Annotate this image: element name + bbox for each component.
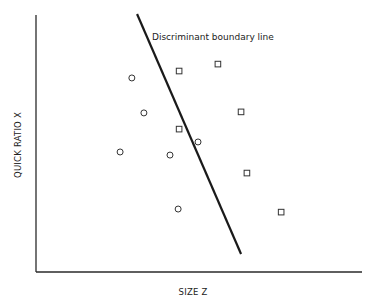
square-marker	[238, 109, 244, 115]
circle-marker	[167, 152, 173, 158]
square-marker	[176, 126, 182, 132]
discriminant-boundary-line	[137, 14, 241, 254]
square-marker	[244, 170, 250, 176]
circle-marker	[195, 139, 201, 145]
x-axis-label: SIZE Z	[179, 287, 208, 297]
axes	[36, 15, 362, 272]
square-marker	[215, 61, 221, 67]
circle-marker	[141, 110, 147, 116]
circle-marker	[117, 149, 123, 155]
circle-marker	[129, 75, 135, 81]
data-points	[117, 61, 284, 215]
square-marker	[278, 209, 284, 215]
boundary-annotation: Discriminant boundary line	[152, 32, 274, 42]
y-axis-label: QUICK RATIO X	[13, 112, 23, 178]
square-marker	[176, 68, 182, 74]
scatter-chart: Discriminant boundary line SIZE Z QUICK …	[0, 0, 376, 303]
circle-marker	[175, 206, 181, 212]
